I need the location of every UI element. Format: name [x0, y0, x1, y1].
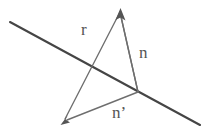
- diagram-canvas: [0, 0, 208, 134]
- vector-label-n-prime: n’: [112, 104, 126, 121]
- vector-reflection-diagram: r n n’: [0, 0, 208, 134]
- surface-line: [10, 22, 200, 125]
- vector-n-prime-line: [67, 92, 138, 120]
- vector-label-n: n: [139, 44, 148, 61]
- vector-label-r: r: [81, 21, 87, 38]
- arrowhead-apex-icon: [116, 8, 126, 21]
- vector-n-line: [120, 12, 138, 92]
